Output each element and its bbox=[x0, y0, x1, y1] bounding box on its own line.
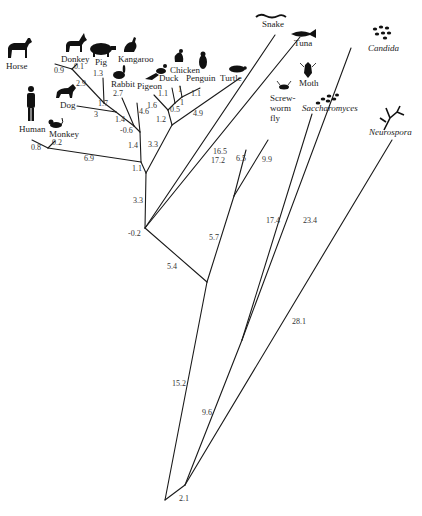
taxon-label-saccharomyces: Saccharomyces bbox=[302, 104, 358, 113]
branch-length-vertebrates: -0.2 bbox=[128, 230, 141, 238]
branch-length-rabbit: 2.7 bbox=[113, 90, 123, 98]
branch-length-candida: 23.4 bbox=[303, 217, 317, 225]
branch-length-ungulate: 1.7 bbox=[98, 100, 108, 108]
taxon-label-snake: Snake bbox=[262, 20, 284, 29]
rabbit-icon bbox=[113, 65, 125, 79]
branch-snake bbox=[145, 35, 275, 228]
pig-icon bbox=[90, 43, 116, 57]
branch-length-tuna: 17.2 bbox=[211, 157, 225, 165]
taxon-label-neurospora: Neurospora bbox=[369, 128, 412, 137]
taxon-label-horse: Horse bbox=[6, 62, 28, 71]
branch-reptiles bbox=[146, 125, 172, 173]
branch-length-mammals-to-node: 1.4 bbox=[128, 142, 138, 150]
turtle-icon bbox=[229, 66, 247, 73]
penguin-icon bbox=[199, 52, 207, 70]
candida-icon bbox=[373, 26, 391, 40]
branch-length-fungi-root: 2.1 bbox=[179, 495, 189, 503]
branch-length-placental: -0.6 bbox=[120, 127, 133, 135]
branch-metazoa bbox=[165, 282, 207, 500]
dog-icon bbox=[56, 84, 76, 98]
tuna-icon bbox=[291, 29, 316, 38]
taxon-label-dog: Dog bbox=[60, 101, 76, 110]
taxon-label-screwworm-line1: Screw- bbox=[270, 94, 296, 103]
branch-length-penguin: 1.1 bbox=[191, 90, 201, 98]
branch-length-pigeon: 1.6 bbox=[147, 102, 157, 110]
branch-length-mammal-inner: 1.4 bbox=[115, 116, 125, 124]
screwworm-fly-icon bbox=[277, 81, 291, 90]
branch-length-metazoa: 15.2 bbox=[172, 380, 186, 388]
branch-length-amniotes: 3.3 bbox=[133, 197, 143, 205]
branch-length-neurospora: 28.1 bbox=[292, 318, 306, 326]
pigeon-icon bbox=[145, 73, 159, 80]
branch-amniotes bbox=[145, 173, 146, 228]
taxon-label-duck: Duck bbox=[159, 74, 179, 83]
branch-length-primates: 6.9 bbox=[84, 155, 94, 163]
kangaroo-icon bbox=[124, 37, 137, 52]
branch-length-yeasts: 9.6 bbox=[202, 409, 212, 417]
branch-length-screwworm: 6.5 bbox=[236, 155, 246, 163]
branch-length-dog: 3 bbox=[94, 111, 98, 119]
taxon-label-moth: Moth bbox=[299, 79, 319, 88]
branch-neurospora bbox=[185, 140, 392, 485]
taxon-label-screwworm-line2: worm bbox=[270, 104, 291, 113]
taxon-label-tuna: Tuna bbox=[294, 39, 312, 48]
branch-length-duck-group: 0.5 bbox=[170, 106, 180, 114]
branch-length-birds: 1.2 bbox=[156, 116, 166, 124]
branch-length-chicken: 1 bbox=[178, 86, 182, 94]
branch-length-monkey: 0.2 bbox=[52, 139, 62, 147]
taxon-label-candida: Candida bbox=[368, 44, 399, 53]
branch-animals bbox=[145, 228, 207, 282]
moth-icon bbox=[300, 62, 316, 78]
branch-length-horse: 0.9 bbox=[54, 67, 64, 75]
taxon-label-turtle: Turtle bbox=[220, 74, 242, 83]
branch-saccharomyces bbox=[242, 114, 312, 340]
branch-moth bbox=[234, 140, 268, 196]
branch-yeasts bbox=[185, 340, 242, 485]
branch-primates bbox=[48, 148, 141, 162]
chicken-icon bbox=[175, 49, 184, 62]
branch-length-human: 0.8 bbox=[31, 144, 41, 152]
branch-length-animals: 5.4 bbox=[167, 263, 177, 271]
snake-icon bbox=[256, 15, 286, 18]
branch-length-horse-donkey: 2.9 bbox=[76, 80, 86, 88]
branch-duck bbox=[172, 88, 175, 103]
branch-length-chicken-penguin: 1 bbox=[180, 99, 184, 107]
horse-icon bbox=[8, 38, 32, 58]
taxon-label-rabbit: Rabbit bbox=[111, 80, 135, 89]
human-icon bbox=[27, 86, 35, 121]
monkey-icon bbox=[49, 118, 63, 128]
taxon-label-penguin: Penguin bbox=[186, 74, 216, 83]
taxon-label-pig: Pig bbox=[95, 58, 107, 67]
taxon-label-kangaroo: Kangaroo bbox=[118, 55, 154, 64]
taxon-label-human: Human bbox=[19, 125, 46, 134]
branch-length-turtle: 4.9 bbox=[193, 110, 203, 118]
branch-candida bbox=[242, 48, 351, 340]
branch-length-duck: 1.1 bbox=[158, 90, 168, 98]
branch-length-pig: 1.3 bbox=[93, 70, 103, 78]
branch-length-donkey: 0.1 bbox=[74, 63, 84, 71]
donkey-icon bbox=[66, 33, 87, 52]
taxon-label-screwworm-line3: fly bbox=[270, 114, 280, 123]
branch-length-moth: 9.9 bbox=[262, 156, 272, 164]
branch-mammals-to-node bbox=[140, 132, 141, 162]
branch-length-reptiles: 3.3 bbox=[148, 141, 158, 149]
branch-length-snake: 16.5 bbox=[213, 148, 227, 156]
branch-length-mammals-root: 1.1 bbox=[132, 165, 142, 173]
branch-length-insects: 5.7 bbox=[209, 234, 219, 242]
branch-length-saccharomyces: 17.4 bbox=[266, 217, 280, 225]
